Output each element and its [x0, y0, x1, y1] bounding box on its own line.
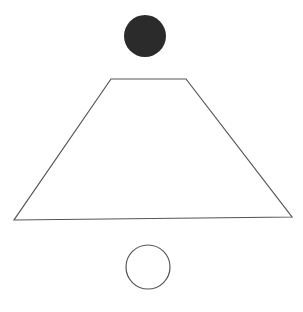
- diagram-canvas: [0, 0, 303, 312]
- trapezoid: [14, 79, 292, 220]
- filled-circle: [124, 15, 166, 57]
- open-circle: [126, 245, 170, 289]
